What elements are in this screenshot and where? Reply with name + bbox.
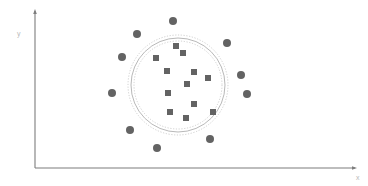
data-point-circle bbox=[153, 144, 161, 152]
data-point-square bbox=[205, 75, 211, 81]
data-point-circle bbox=[133, 30, 141, 38]
axes-group bbox=[33, 9, 357, 170]
inner-boundary-circle bbox=[134, 41, 222, 129]
data-point-circle bbox=[126, 126, 134, 134]
data-point-circle bbox=[223, 39, 231, 47]
x-axis-arrow-icon bbox=[352, 166, 357, 170]
data-point-square bbox=[165, 90, 171, 96]
series-inliers bbox=[153, 43, 216, 121]
data-point-square bbox=[164, 68, 170, 74]
boundary-circles-group bbox=[128, 35, 228, 135]
data-point-circle bbox=[243, 90, 251, 98]
y-axis-label: y bbox=[17, 30, 21, 37]
data-point-square bbox=[191, 69, 197, 75]
middle-boundary-circle bbox=[131, 38, 225, 132]
data-point-circle bbox=[108, 89, 116, 97]
data-point-square bbox=[210, 109, 216, 115]
data-point-square bbox=[167, 109, 173, 115]
y-axis-arrow-icon bbox=[33, 9, 37, 14]
data-point-circle bbox=[206, 135, 214, 143]
data-point-circle bbox=[118, 53, 126, 61]
data-point-square bbox=[191, 101, 197, 107]
x-axis-label: x bbox=[356, 174, 360, 181]
data-point-square bbox=[173, 43, 179, 49]
scatter-plot-figure: y x bbox=[0, 0, 368, 186]
data-point-square bbox=[153, 55, 159, 61]
data-point-square bbox=[184, 81, 190, 87]
data-point-square bbox=[183, 115, 189, 121]
data-point-square bbox=[180, 50, 186, 56]
plot-canvas bbox=[0, 0, 368, 186]
data-point-circle bbox=[237, 71, 245, 79]
data-point-circle bbox=[169, 17, 177, 25]
outer-boundary-circle bbox=[128, 35, 228, 135]
